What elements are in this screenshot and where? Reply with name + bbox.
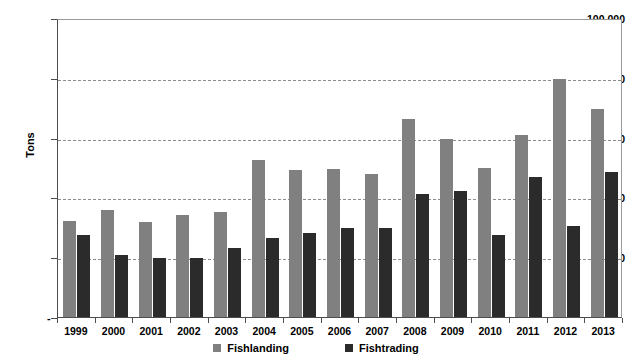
x-axis-tick-mark [509, 318, 510, 323]
bar-fishlanding-2007 [365, 174, 378, 317]
bar-fishtrading-2012 [567, 226, 580, 317]
legend-swatch-icon [345, 344, 353, 352]
bar-fishlanding-2009 [440, 139, 453, 317]
x-axis-tick-mark [95, 318, 96, 323]
bar-fishlanding-2008 [402, 119, 415, 317]
bar-fishlanding-2003 [214, 212, 227, 317]
x-axis-tick-label-2007: 2007 [365, 325, 388, 337]
x-axis-tick-mark [547, 318, 548, 323]
bar-fishtrading-2004 [266, 238, 279, 317]
legend-label: Fishtrading [359, 342, 419, 354]
bar-fishlanding-2001 [139, 222, 152, 317]
bar-fishlanding-2002 [176, 215, 189, 317]
bar-fishtrading-2003 [228, 248, 241, 317]
x-axis-tick-label-2013: 2013 [591, 325, 614, 337]
legend-swatch-icon [213, 344, 221, 352]
x-axis-tick-label-2008: 2008 [403, 325, 426, 337]
bar-fishtrading-2011 [529, 177, 542, 317]
x-axis-tick-label-2011: 2011 [516, 325, 539, 337]
x-axis-tick-mark [584, 318, 585, 323]
x-axis-tick-mark [132, 318, 133, 323]
x-axis-tick-mark [57, 318, 58, 323]
bar-fishtrading-2013 [605, 172, 618, 317]
chart-legend: FishlandingFishtrading [0, 342, 632, 354]
bar-fishtrading-2009 [454, 191, 467, 317]
legend-item-fishlanding[interactable]: Fishlanding [213, 342, 289, 354]
bar-fishtrading-2008 [416, 194, 429, 317]
x-axis-tick-mark [321, 318, 322, 323]
x-axis-tick-label-2004: 2004 [252, 325, 275, 337]
x-axis-tick-mark [434, 318, 435, 323]
bar-fishlanding-2012 [553, 79, 566, 317]
plot-area [57, 19, 622, 318]
bar-fishlanding-2005 [289, 170, 302, 317]
bar-fishlanding-2013 [591, 109, 604, 317]
x-axis-tick-label-2003: 2003 [215, 325, 238, 337]
bar-fishlanding-2011 [515, 135, 528, 317]
x-axis-tick-label-2002: 2002 [177, 325, 200, 337]
bar-fishtrading-2002 [190, 258, 203, 318]
x-axis-tick-label-2010: 2010 [478, 325, 501, 337]
x-axis-tick-label-2001: 2001 [139, 325, 162, 337]
x-axis-tick-label-1999: 1999 [64, 325, 87, 337]
bar-fishtrading-2005 [303, 233, 316, 317]
x-axis-tick-mark [170, 318, 171, 323]
bar-fishlanding-1999 [63, 221, 76, 317]
x-axis-tick-label-2009: 2009 [441, 325, 464, 337]
x-axis-tick-mark [208, 318, 209, 323]
x-axis-tick-mark [245, 318, 246, 323]
legend-label: Fishlanding [227, 342, 289, 354]
bar-fishtrading-2010 [492, 235, 505, 317]
bar-fishtrading-2000 [115, 255, 128, 317]
x-axis-tick-label-2006: 2006 [328, 325, 351, 337]
x-axis-tick-mark [622, 318, 623, 323]
y-axis-title: Tons [24, 105, 36, 185]
x-axis-tick-mark [396, 318, 397, 323]
bar-fishlanding-2000 [101, 210, 114, 317]
bar-fishtrading-2006 [341, 228, 354, 317]
x-axis-tick-label-2000: 2000 [102, 325, 125, 337]
x-axis-tick-mark [283, 318, 284, 323]
x-axis-tick-label-2012: 2012 [554, 325, 577, 337]
legend-item-fishtrading[interactable]: Fishtrading [345, 342, 419, 354]
x-axis-tick-label-2005: 2005 [290, 325, 313, 337]
x-axis-tick-mark [471, 318, 472, 323]
bar-fishtrading-2001 [153, 258, 166, 318]
x-axis-tick-mark [358, 318, 359, 323]
bar-chart: Tons 100,00080,00060,00040,00020,000 - 1… [0, 0, 632, 361]
bar-fishtrading-2007 [379, 228, 392, 317]
bars-layer [58, 20, 621, 317]
bar-fishlanding-2004 [252, 160, 265, 317]
bar-fishlanding-2010 [478, 168, 491, 318]
y-axis-zero-marker: - [47, 316, 51, 320]
bar-fishlanding-2006 [327, 169, 340, 317]
bar-fishtrading-1999 [77, 235, 90, 317]
